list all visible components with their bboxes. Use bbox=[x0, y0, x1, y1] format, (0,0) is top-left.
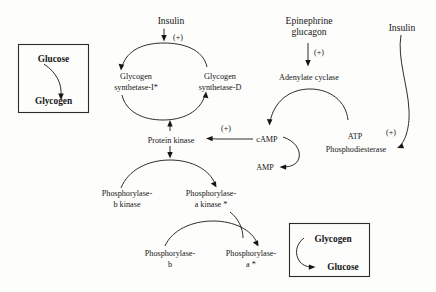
synthetase-lower-arc bbox=[122, 95, 205, 120]
node-glucagon: glucagon bbox=[291, 26, 326, 37]
sign-insulin-left: (+) bbox=[173, 33, 183, 42]
node-phosphorylase-b-line1: Phosphorylase- bbox=[145, 249, 196, 258]
node-phosphodiesterase: Phosphodiesterase bbox=[326, 145, 387, 154]
node-phosphorylase-a-kinase-line1: Phosphorylase- bbox=[186, 189, 237, 198]
camp-to-protein-kinase-line bbox=[209, 139, 253, 140]
protein-kinase-down-arrowhead bbox=[167, 152, 172, 159]
phosphorylase-arc bbox=[165, 221, 257, 246]
node-phosphorylase-b-line2: b bbox=[168, 260, 172, 269]
node-phosphorylase-a-line2: a * bbox=[246, 260, 256, 269]
camp-to-amp-arc bbox=[283, 137, 299, 167]
phosphorylase-kinase-arrowhead bbox=[211, 181, 217, 187]
epinephrine-arrowhead bbox=[305, 60, 310, 67]
node-phosphorylase-b-kinase-line2: b kinase bbox=[113, 200, 140, 209]
glycogen-to-glucose-arrowhead bbox=[309, 264, 316, 269]
camp-to-protein-kinase-arrowhead bbox=[206, 136, 213, 141]
synthetase-lower-arrowhead bbox=[203, 92, 209, 99]
node-adenylate-cyclase: Adenylate cyclase bbox=[279, 73, 339, 82]
breakdown-box-substrate: Glycogen bbox=[314, 234, 352, 244]
sign-protein-kinase: (+) bbox=[221, 124, 231, 133]
synthetase-upper-arc bbox=[122, 43, 207, 67]
node-glycogen-synthetase-i-line1: Glycogen bbox=[120, 72, 152, 81]
synthesis-box-substrate: Glucose bbox=[38, 54, 70, 64]
node-camp: cAMP bbox=[256, 135, 278, 144]
diagram-canvas: Glucose Glycogen Insulin (+) Glycogen sy… bbox=[0, 0, 436, 292]
glycogen-regulation-diagram: Glucose Glycogen Insulin (+) Glycogen sy… bbox=[0, 0, 436, 292]
node-atp: ATP bbox=[348, 132, 363, 141]
node-glycogen-synthetase-d-line1: Glycogen bbox=[204, 72, 236, 81]
synthesis-box-product: Glycogen bbox=[35, 96, 73, 106]
insulin-left-arrowhead bbox=[161, 35, 166, 42]
node-phosphorylase-a-line1: Phosphorylase- bbox=[226, 249, 277, 258]
protein-kinase-up-arrowhead bbox=[167, 120, 172, 127]
phosphorylase-kinase-arc bbox=[121, 160, 215, 188]
node-insulin-left: Insulin bbox=[158, 15, 185, 26]
sign-epinephrine: (+) bbox=[314, 48, 324, 57]
atp-to-camp-arc bbox=[270, 89, 348, 122]
synthetase-upper-arrowhead bbox=[119, 64, 125, 71]
node-protein-kinase: Protein kinase bbox=[148, 136, 195, 145]
node-insulin-right: Insulin bbox=[389, 22, 416, 33]
sign-insulin-right: (+) bbox=[386, 128, 396, 137]
glucose-to-glycogen-arrow-line bbox=[44, 64, 61, 96]
node-amp: AMP bbox=[256, 163, 274, 172]
node-epinephrine: Epinephrine bbox=[286, 15, 333, 26]
atp-to-camp-arrowhead bbox=[267, 119, 273, 126]
breakdown-box-product: Glucose bbox=[327, 262, 359, 272]
node-phosphorylase-b-kinase-line1: Phosphorylase- bbox=[102, 189, 153, 198]
camp-to-amp-arrowhead bbox=[280, 164, 287, 169]
insulin-right-arrowhead bbox=[397, 143, 404, 148]
node-glycogen-synthetase-d-line2: synthetase-D bbox=[199, 83, 242, 92]
phosphorylase-arrowhead bbox=[253, 240, 259, 246]
node-glycogen-synthetase-i-line2: synthetase-I* bbox=[114, 83, 158, 92]
insulin-right-curve bbox=[400, 35, 409, 146]
glycogen-to-glucose-arrow-line bbox=[297, 238, 312, 267]
node-phosphorylase-a-kinase-line2: a kinase * bbox=[195, 200, 228, 209]
